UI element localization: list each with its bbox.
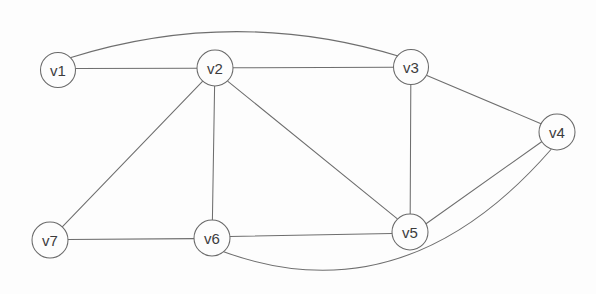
graph-edge-v2-v7 — [63, 81, 203, 226]
graph-node-v3[interactable]: v3 — [394, 50, 429, 85]
node-label-v5: v5 — [402, 224, 418, 241]
graph-node-v5[interactable]: v5 — [392, 214, 428, 250]
node-label-v2: v2 — [207, 60, 223, 77]
node-label-v4: v4 — [549, 124, 565, 141]
node-label-v1: v1 — [50, 62, 66, 79]
graph-edge-v2-v5 — [228, 81, 397, 218]
graph-node-v7[interactable]: v7 — [32, 222, 68, 258]
graph-node-v2[interactable]: v2 — [197, 50, 233, 86]
edge-layer — [63, 32, 552, 271]
node-label-v7: v7 — [42, 232, 58, 249]
graph-edge-v6-v7 — [68, 239, 194, 240]
graph-edge-v2-v6 — [212, 86, 214, 220]
graph-figure: v1v2v3v4v5v6v7 — [0, 0, 596, 294]
graph-edge-v5-v6 — [230, 234, 392, 237]
node-label-v6: v6 — [204, 230, 220, 247]
graph-edge-v2-v3 — [233, 67, 394, 68]
graph-edge-v3-v5 — [410, 85, 411, 215]
node-label-v3: v3 — [403, 59, 419, 76]
graph-edge-v3-v4 — [427, 76, 542, 125]
graph-edge-v1-v3 — [71, 32, 402, 58]
graph-node-v6[interactable]: v6 — [194, 220, 230, 256]
graph-node-v4[interactable]: v4 — [539, 114, 575, 150]
graph-canvas: v1v2v3v4v5v6v7 — [0, 0, 596, 294]
node-layer: v1v2v3v4v5v6v7 — [32, 50, 575, 259]
graph-edge-v4-v5 — [425, 142, 542, 225]
graph-node-v1[interactable]: v1 — [41, 53, 76, 88]
